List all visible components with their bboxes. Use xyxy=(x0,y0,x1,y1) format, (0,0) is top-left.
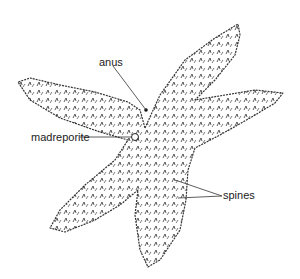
label-anus: anus xyxy=(99,57,123,68)
label-madreporite: madreporite xyxy=(31,132,90,143)
starfish-diagram: anus madreporite spines xyxy=(0,0,300,279)
starfish-body xyxy=(18,24,283,267)
label-spines: spines xyxy=(223,190,255,201)
